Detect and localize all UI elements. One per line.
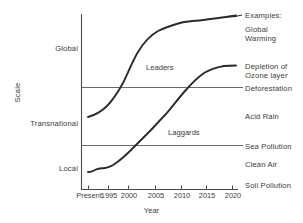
chart-container: Scale Global Transnational Local Present… xyxy=(0,0,303,223)
x-tick-label-2010: 2010 xyxy=(170,191,194,200)
series-curve-laggards xyxy=(88,66,236,173)
x-tick-label-2005: 2005 xyxy=(144,191,168,200)
y-axis-title: Scale xyxy=(13,70,22,116)
annotation-deforestation: Deforestation xyxy=(245,84,292,93)
annotation-sea-pollution: Sea Pollution xyxy=(245,142,292,151)
annotation-soil-pollution: Soil Pollution xyxy=(245,181,291,190)
y-tick-label-global: Global xyxy=(26,44,78,53)
annotation-ozone-line1: Depletion of xyxy=(245,62,287,71)
annotation-global-warming-line2: Warming xyxy=(245,34,276,43)
annotation-examples-heading: Examples: xyxy=(245,11,282,20)
annotation-clean-air: Clean Air xyxy=(245,160,277,169)
x-tick-label-2020: 2020 xyxy=(221,191,245,200)
x-tick-label-2000: 2000 xyxy=(117,191,141,200)
y-tick-label-local: Local xyxy=(30,164,78,173)
x-tick-label-2015: 2015 xyxy=(195,191,219,200)
x-axis-ticks xyxy=(89,186,233,190)
series-label-laggards: Laggards xyxy=(168,128,200,137)
annotation-global-warming-line1: Global xyxy=(245,25,268,34)
annotation-ozone-line2: Ozone layer xyxy=(245,71,288,80)
series-label-leaders: Leaders xyxy=(146,63,173,72)
x-axis-title: Year xyxy=(0,206,303,215)
y-tick-label-transnational: Transnational xyxy=(10,119,78,128)
annotation-acid-rain: Acid Rain xyxy=(245,112,279,121)
